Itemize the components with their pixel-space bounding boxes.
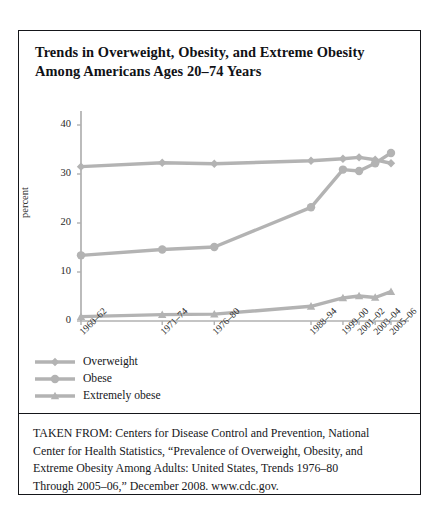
legend-marker-triangle-icon	[33, 389, 77, 403]
source-line: TAKEN FROM: Centers for Disease Control …	[33, 425, 407, 443]
figure-frame: Trends in Overweight, Obesity, and Extre…	[18, 30, 421, 495]
data-point-marker	[51, 357, 59, 365]
data-point-marker	[77, 162, 85, 170]
figure-title-line-1: Trends in Overweight, Obesity, and Extre…	[35, 43, 407, 62]
data-point-marker	[355, 167, 363, 175]
data-point-marker	[371, 159, 379, 167]
figure-title: Trends in Overweight, Obesity, and Extre…	[35, 43, 407, 81]
y-axis-tick-label: 0	[45, 314, 71, 325]
series-overweight	[77, 153, 395, 171]
data-point-marker	[158, 245, 166, 253]
data-point-marker	[387, 149, 395, 157]
data-point-marker	[307, 157, 315, 165]
data-point-marker	[77, 251, 85, 259]
source-citation: TAKEN FROM: Centers for Disease Control …	[33, 425, 407, 495]
data-point-marker	[355, 153, 363, 161]
chart-legend: OverweightObeseExtremely obese	[33, 353, 333, 404]
source-divider	[19, 413, 420, 414]
source-line: Center for Health Statistics, “Prevalenc…	[33, 443, 407, 461]
legend-marker-circle-icon	[33, 372, 77, 386]
source-line: Through 2005–06,” December 2008. www.cdc…	[33, 478, 407, 496]
y-axis-tick-label: 30	[45, 167, 71, 178]
chart-plot-area: percent 0102030401960–621971–741976–8019…	[19, 93, 420, 345]
data-point-marker	[210, 160, 218, 168]
source-line: Extreme Obesity Among Adults: United Sta…	[33, 460, 407, 478]
legend-item-label: Obese	[83, 372, 112, 385]
y-axis-tick-label: 10	[45, 265, 71, 276]
data-point-marker	[210, 243, 218, 251]
y-axis-title: percent	[19, 187, 30, 218]
data-point-marker	[339, 165, 347, 173]
y-axis-tick-label: 20	[45, 216, 71, 227]
legend-item: Extremely obese	[33, 387, 333, 404]
legend-item: Overweight	[33, 353, 333, 370]
legend-item-label: Extremely obese	[83, 389, 161, 402]
data-point-marker	[307, 203, 315, 211]
data-point-marker	[158, 159, 166, 167]
y-axis-tick-label: 40	[45, 118, 71, 129]
data-point-marker	[387, 159, 395, 167]
figure-title-line-2: Among Americans Ages 20–74 Years	[35, 62, 407, 81]
legend-item: Obese	[33, 370, 333, 387]
data-point-marker	[51, 374, 59, 382]
legend-item-label: Overweight	[83, 355, 138, 368]
legend-marker-diamond-icon	[33, 355, 77, 369]
data-point-marker	[339, 155, 347, 163]
